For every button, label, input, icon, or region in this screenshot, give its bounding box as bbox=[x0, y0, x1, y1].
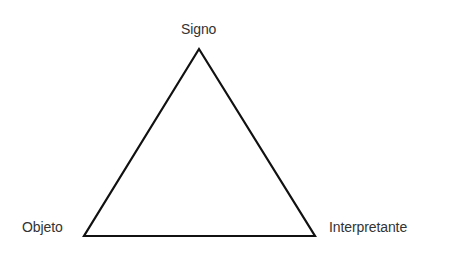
triangle-outline bbox=[84, 49, 315, 236]
vertex-label-objeto: Objeto bbox=[22, 219, 63, 235]
vertex-label-interpretante: Interpretante bbox=[329, 219, 407, 235]
vertex-label-signo: Signo bbox=[181, 21, 216, 37]
